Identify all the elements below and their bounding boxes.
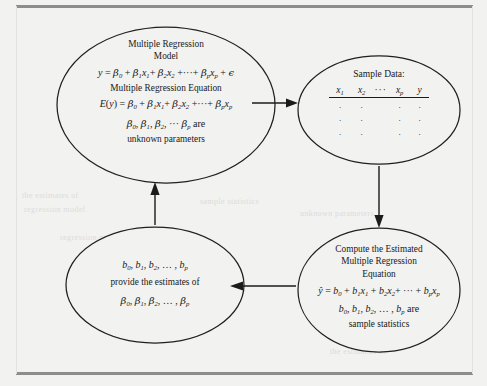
cell-dot — [372, 125, 389, 138]
arrow-estimates-to-model — [150, 182, 159, 225]
arrow-compute-to-estimates — [230, 281, 296, 290]
cell-dot: . — [389, 98, 411, 112]
compute-title-line-1: Compute the Estimated — [300, 243, 458, 255]
sample-data-table: x1 x2 ··· xp y . . . . . . — [329, 84, 428, 138]
model-title-line-1: Multiple Regression — [57, 38, 275, 50]
arrow-sample-to-compute — [374, 166, 383, 228]
compute-title-line-2: Multiple Regression — [300, 255, 458, 267]
cell-dot: . — [410, 98, 428, 112]
model-subtitle: Multiple Regression Equation — [57, 82, 275, 94]
cell-dot: . — [410, 111, 428, 124]
cell-dot: . — [351, 111, 373, 124]
node-compute-estimated: Compute the Estimated Multiple Regressio… — [300, 243, 458, 331]
column-header-xp: xp — [389, 84, 411, 98]
compute-equation: ŷ = b0 + b1x1 + b2x2+ ··· + bpxp — [300, 284, 458, 297]
model-parameters-note: unknown parameters — [57, 133, 275, 145]
cell-dot: . — [329, 125, 351, 138]
table-row: . . . . — [329, 111, 428, 124]
cell-dot: . — [389, 111, 411, 124]
estimates-b-list: b0, b1, b2, … , bp — [71, 258, 239, 271]
column-header-y: y — [410, 84, 428, 98]
column-header-x2: x2 — [351, 84, 373, 98]
model-equation: y = β0 + β1x1+ β2x2 +···+ βpxp + ϵ — [57, 66, 275, 79]
estimates-caption: provide the estimates of — [71, 276, 239, 288]
table-row: . . . . — [329, 98, 428, 112]
cell-dot: . — [329, 98, 351, 112]
estimates-beta-list: β0, β1, β2, … , βp — [71, 294, 239, 307]
column-header-ellipsis: ··· — [372, 84, 389, 98]
model-title-line-2: Model — [57, 50, 275, 62]
compute-statistics-list: b0, b1, b2, … , bp are — [300, 302, 458, 315]
node-model: Multiple Regression Model y = β0 + β1x1+… — [57, 38, 275, 145]
cell-dot: . — [329, 111, 351, 124]
cell-dot — [372, 98, 389, 112]
sample-data-header-row: x1 x2 ··· xp y — [329, 84, 428, 98]
cell-dot — [372, 111, 389, 124]
column-header-x1: x1 — [329, 84, 351, 98]
sample-data-heading: Sample Data: — [311, 68, 447, 81]
node-estimates: b0, b1, b2, … , bp provide the estimates… — [71, 258, 239, 307]
compute-statistics-tail: are — [407, 303, 419, 314]
compute-title-line-3: Equation — [300, 268, 458, 280]
cell-dot: . — [351, 125, 373, 138]
cell-dot: . — [410, 125, 428, 138]
compute-statistics-note: sample statistics — [300, 318, 458, 330]
table-row: . . . . — [329, 125, 428, 138]
cell-dot: . — [389, 125, 411, 138]
model-parameters-tail: are — [193, 118, 205, 129]
node-sample-data: Sample Data: x1 x2 ··· xp y . . . . — [311, 68, 447, 138]
model-parameters-list: β0, β1, β2, ··· βp are — [57, 117, 275, 130]
figure-page: the estimates of regression model sample… — [0, 0, 487, 386]
model-expectation-equation: E(y) = β0 + β1x1+ β2x2 +···+ βpxp — [57, 97, 275, 110]
cell-dot: . — [351, 98, 373, 112]
